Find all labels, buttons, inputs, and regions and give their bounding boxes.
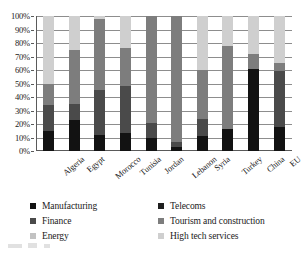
legend-item[interactable]: Telecoms [158, 198, 292, 213]
bar-segment [146, 123, 157, 138]
x-axis-tick-label: Tunisia [137, 154, 162, 177]
stacked-bar[interactable] [171, 16, 182, 151]
bar-segment [146, 16, 157, 123]
y-axis: 100%90%80%70%60%50%40%30%20%10%0% [0, 16, 34, 151]
bar-segment [248, 54, 259, 69]
bar-segment [248, 16, 259, 54]
stacked-bar[interactable] [146, 16, 157, 151]
bar-slot [113, 16, 139, 151]
y-axis-tick-mark [31, 57, 34, 58]
legend-item-label: Manufacturing [42, 201, 97, 211]
bar-segment [69, 120, 80, 151]
bar-slot [87, 16, 113, 151]
legend-column: TelecomsTourism and constructionHigh tec… [158, 198, 292, 243]
stacked-bar[interactable] [94, 16, 105, 151]
bar-slot [138, 16, 164, 151]
y-axis-tick-label: 40% [15, 92, 30, 102]
bar-segment [43, 16, 54, 84]
bar-segment [43, 131, 54, 151]
bar-segment [197, 136, 208, 151]
bar-group [36, 16, 292, 151]
bar-segment [274, 71, 285, 126]
x-axis-tick-label: Jordan [162, 154, 185, 176]
x-axis-tick-label: Syria [212, 154, 232, 173]
y-axis-tick-label: 20% [15, 119, 30, 129]
bar-segment [69, 104, 80, 120]
bar-segment [248, 69, 259, 151]
stacked-bar[interactable] [222, 16, 233, 151]
bar-segment [222, 129, 233, 151]
stacked-bar[interactable] [274, 16, 285, 151]
artifact-mark [44, 244, 50, 248]
stacked-bar[interactable] [120, 16, 131, 151]
legend-square-swatch [30, 218, 36, 224]
x-axis: AlgeriaEgyptMoroccoTunisiaJordanLebanonS… [36, 152, 292, 196]
stacked-bar[interactable] [248, 16, 259, 151]
legend-column: ManufacturingFinanceEnergy [30, 198, 158, 243]
legend-square-swatch [158, 233, 164, 239]
legend-item-label: Finance [42, 216, 71, 226]
artifact-mark [28, 243, 37, 248]
legend-square-swatch [30, 233, 36, 239]
legend-square-swatch [158, 203, 164, 209]
legend-item[interactable]: Tourism and construction [158, 213, 292, 228]
y-axis-tick-mark [31, 16, 34, 17]
y-axis-tick-mark [31, 30, 34, 31]
chart-figure: 100%90%80%70%60%50%40%30%20%10%0% Algeri… [0, 0, 302, 253]
bar-slot [266, 16, 292, 151]
y-axis-tick-mark [31, 97, 34, 98]
y-axis-tick-mark [31, 124, 34, 125]
bar-slot [164, 16, 190, 151]
y-axis-tick-mark [31, 111, 34, 112]
bar-segment [43, 84, 54, 106]
bar-segment [120, 86, 131, 133]
legend-item-label: Energy [42, 231, 69, 241]
bar-slot [215, 16, 241, 151]
y-axis-tick-label: 50% [15, 79, 30, 89]
x-axis-tick-label: Algeria [61, 154, 86, 178]
page-scan-artifact [0, 241, 302, 253]
bar-segment [120, 133, 131, 151]
stacked-bar[interactable] [69, 16, 80, 151]
bar-segment [274, 127, 285, 151]
y-axis-tick-mark [31, 84, 34, 85]
bar-segment [94, 19, 105, 91]
stacked-bar[interactable] [197, 16, 208, 151]
stacked-bar[interactable] [43, 16, 54, 151]
bar-segment [197, 16, 208, 70]
bar-segment [222, 16, 233, 46]
x-axis-tick-label: Morocco [113, 154, 142, 181]
y-axis-tick-label: 30% [15, 106, 30, 116]
legend-square-swatch [30, 203, 36, 209]
y-axis-tick-label: 80% [15, 38, 30, 48]
bar-slot [36, 16, 62, 151]
y-axis-tick-mark [31, 43, 34, 44]
artifact-mark [8, 244, 22, 248]
bar-segment [120, 48, 131, 86]
legend-item-label: High tech services [170, 231, 238, 241]
y-axis-tick-label: 10% [15, 133, 30, 143]
bar-segment [43, 105, 54, 131]
bar-segment [171, 147, 182, 151]
y-axis-tick-label: 60% [15, 65, 30, 75]
bar-segment [69, 16, 80, 50]
y-axis-tick-label: 90% [15, 25, 30, 35]
legend-item[interactable]: Finance [30, 213, 158, 228]
y-axis-tick-mark [31, 151, 34, 152]
x-axis-tick-label: Turkey [240, 154, 265, 177]
bar-slot [62, 16, 88, 151]
x-axis-tick-label: Egypt [85, 154, 107, 174]
bar-segment [274, 16, 285, 63]
bar-slot [241, 16, 267, 151]
legend-square-swatch [158, 218, 164, 224]
y-axis-tick-label: 70% [15, 52, 30, 62]
legend-item[interactable]: Manufacturing [30, 198, 158, 213]
x-axis-tick-label: China [264, 154, 286, 174]
bar-segment [94, 135, 105, 151]
bar-segment [274, 63, 285, 71]
bar-slot [190, 16, 216, 151]
legend-item-label: Tourism and construction [170, 216, 265, 226]
bar-segment [222, 46, 233, 130]
legend-item-label: Telecoms [170, 201, 205, 211]
bar-segment [94, 90, 105, 135]
